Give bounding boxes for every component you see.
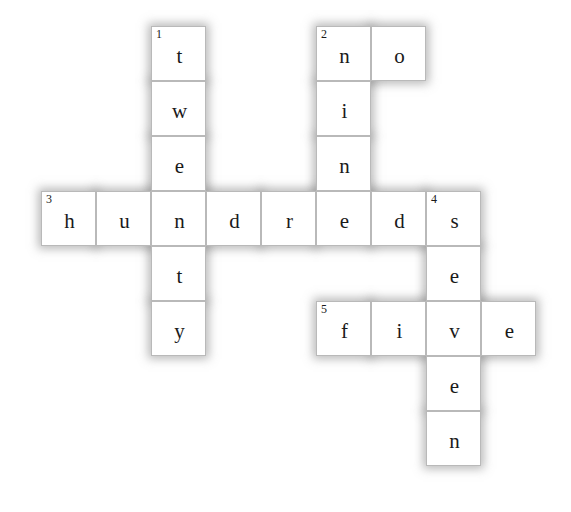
cell-letter: e	[427, 357, 482, 412]
cell-letter: n	[317, 137, 372, 192]
cell-r3c0[interactable]: 3h	[41, 191, 96, 246]
cell-letter: u	[97, 192, 152, 247]
cell-letter: e	[482, 302, 537, 357]
cell-letter: d	[207, 192, 262, 247]
crossword-grid: 1twe2noin3hundred4stye5fiveen	[0, 0, 571, 512]
cell-r2c2[interactable]: e	[151, 136, 206, 191]
cell-r5c8[interactable]: e	[481, 301, 536, 356]
cell-r7c7[interactable]: n	[426, 411, 481, 466]
cell-letter: v	[427, 302, 482, 357]
cell-r5c2[interactable]: y	[151, 301, 206, 356]
cell-letter: i	[317, 82, 372, 137]
cell-letter: n	[317, 27, 372, 82]
cell-letter: t	[152, 27, 207, 82]
cell-letter: f	[317, 302, 372, 357]
cell-letter: i	[372, 302, 427, 357]
cell-r5c7[interactable]: v	[426, 301, 481, 356]
cell-r3c7[interactable]: 4s	[426, 191, 481, 246]
cell-letter: e	[152, 137, 207, 192]
cell-r5c6[interactable]: i	[371, 301, 426, 356]
cell-letter: o	[372, 27, 427, 82]
cell-letter: w	[152, 82, 207, 137]
cell-letter: n	[152, 192, 207, 247]
cell-r3c1[interactable]: u	[96, 191, 151, 246]
cell-r1c2[interactable]: w	[151, 81, 206, 136]
cell-letter: e	[427, 247, 482, 302]
cell-letter: n	[427, 412, 482, 467]
cell-letter: h	[42, 192, 97, 247]
cell-r4c2[interactable]: t	[151, 246, 206, 301]
cell-r0c6[interactable]: o	[371, 26, 426, 81]
cell-letter: r	[262, 192, 317, 247]
cell-r6c7[interactable]: e	[426, 356, 481, 411]
cell-letter: t	[152, 247, 207, 302]
cell-r5c5[interactable]: 5f	[316, 301, 371, 356]
cell-r3c6[interactable]: d	[371, 191, 426, 246]
cell-r0c2[interactable]: 1t	[151, 26, 206, 81]
cell-letter: y	[152, 302, 207, 357]
cell-letter: s	[427, 192, 482, 247]
cell-r1c5[interactable]: i	[316, 81, 371, 136]
cell-letter: e	[317, 192, 372, 247]
cell-r0c5[interactable]: 2n	[316, 26, 371, 81]
cell-r2c5[interactable]: n	[316, 136, 371, 191]
cell-letter: d	[372, 192, 427, 247]
cell-r3c3[interactable]: d	[206, 191, 261, 246]
cell-r3c5[interactable]: e	[316, 191, 371, 246]
crossword-puzzle: 1twe2noin3hundred4stye5fiveen	[0, 0, 571, 512]
cell-r4c7[interactable]: e	[426, 246, 481, 301]
cell-r3c4[interactable]: r	[261, 191, 316, 246]
cell-r3c2[interactable]: n	[151, 191, 206, 246]
